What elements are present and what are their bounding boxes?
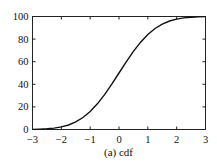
x-tick-label: 3 [203, 134, 208, 145]
y-tick-label: 100 [13, 11, 29, 22]
chart-caption: (a) cdf [0, 146, 217, 158]
x-tick-label: 2 [174, 134, 179, 145]
cdf-chart: −3−2−10123 020406080100 [0, 0, 217, 164]
y-tick-label: 60 [18, 56, 29, 67]
y-axis-ticks: 020406080100 [13, 11, 206, 135]
y-tick-label: 0 [23, 124, 28, 135]
y-tick-label: 80 [18, 34, 29, 45]
cdf-curve [33, 17, 206, 130]
x-tick-label: 0 [116, 134, 121, 145]
x-tick-label: −1 [85, 134, 96, 145]
x-tick-label: −3 [27, 134, 38, 145]
y-tick-label: 20 [18, 101, 29, 112]
x-tick-label: 1 [145, 134, 150, 145]
x-axis-ticks: −3−2−10123 [27, 17, 208, 145]
y-tick-label: 40 [18, 79, 29, 90]
x-tick-label: −2 [56, 134, 67, 145]
